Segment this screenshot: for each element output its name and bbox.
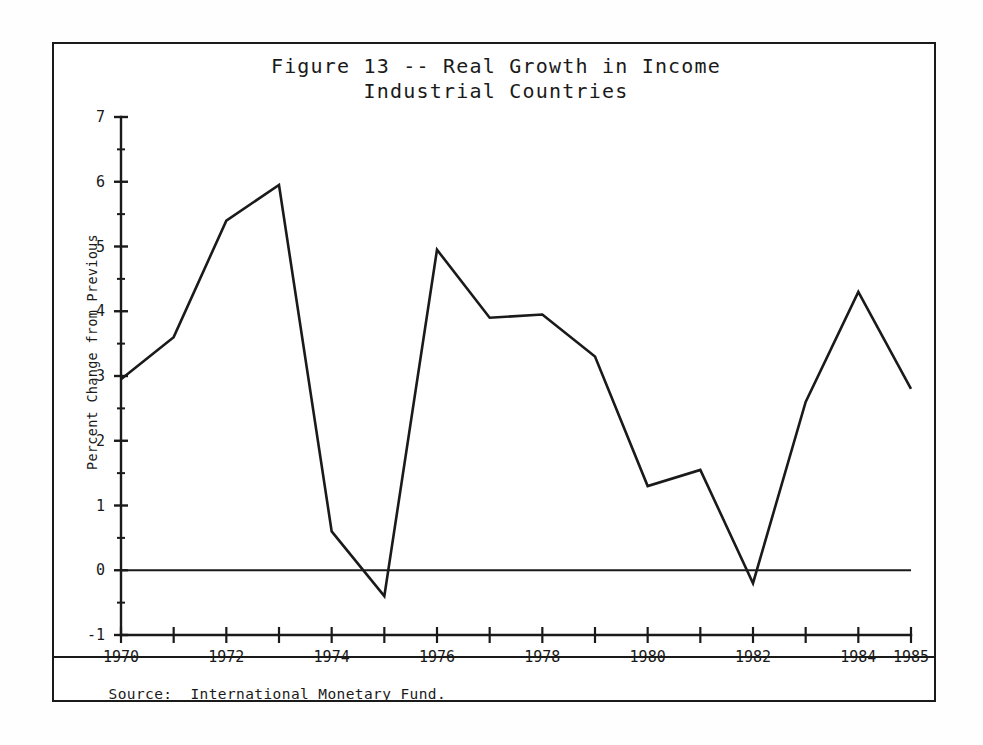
source-label: Source: xyxy=(109,686,173,702)
series-polyline xyxy=(121,185,911,596)
y-tick-label: 3 xyxy=(65,367,105,385)
y-tick-label: -1 xyxy=(65,626,105,644)
y-tick-label: 6 xyxy=(65,173,105,191)
chart-plot-area xyxy=(54,44,938,704)
y-tick-label: 0 xyxy=(65,561,105,579)
source-divider xyxy=(52,656,936,658)
y-tick-label: 4 xyxy=(65,302,105,320)
source-note: Source:International Monetary Fund. xyxy=(72,670,446,718)
chart-axes xyxy=(114,117,911,643)
y-tick-label: 1 xyxy=(65,497,105,515)
y-tick-label: 2 xyxy=(65,432,105,450)
y-tick-label: 7 xyxy=(65,108,105,126)
figure-frame: Figure 13 -- Real Growth in Income Indus… xyxy=(52,42,936,702)
figure-page: Figure 13 -- Real Growth in Income Indus… xyxy=(0,0,983,745)
y-tick-label: 5 xyxy=(65,238,105,256)
data-series-line xyxy=(121,185,911,596)
source-text: International Monetary Fund. xyxy=(190,686,446,702)
